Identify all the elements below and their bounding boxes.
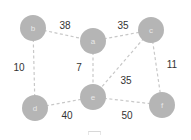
edge-weight-a-e: 7 — [76, 62, 82, 73]
weighted-graph: bacdef 383510735114050 — [0, 0, 191, 140]
edge-weight-d-e: 40 — [61, 110, 73, 121]
node-label: a — [91, 37, 96, 46]
node-b[interactable]: b — [20, 15, 46, 41]
node-c[interactable]: c — [138, 17, 164, 43]
resize-handle[interactable] — [88, 131, 101, 135]
node-e[interactable]: e — [80, 84, 106, 110]
nodes-layer: bacdef — [20, 15, 175, 121]
edge-weight-b-d: 10 — [13, 62, 25, 73]
node-f[interactable]: f — [149, 92, 175, 118]
node-label: d — [33, 104, 37, 113]
edge-weight-e-f: 50 — [121, 110, 133, 121]
edge-weight-a-c: 35 — [117, 20, 129, 31]
node-label: c — [149, 26, 153, 35]
edge-weight-c-e: 35 — [120, 75, 132, 86]
node-label: e — [91, 93, 96, 102]
node-a[interactable]: a — [80, 28, 106, 54]
node-d[interactable]: d — [22, 95, 48, 121]
node-label: b — [31, 24, 36, 33]
edge-weight-c-f: 11 — [167, 59, 178, 70]
edge-weight-b-a: 38 — [59, 20, 71, 31]
